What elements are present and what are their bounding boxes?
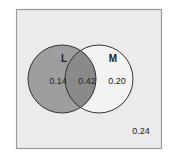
intersection-value: 0.42 <box>78 76 96 86</box>
m-only-value: 0.20 <box>108 76 126 86</box>
outside-value: 0.24 <box>132 126 150 136</box>
venn-diagram: L M 0.14 0.42 0.20 0.24 <box>0 0 170 159</box>
l-only-value: 0.14 <box>49 76 67 86</box>
set-label-l: L <box>61 53 67 64</box>
set-label-m: M <box>109 53 117 64</box>
